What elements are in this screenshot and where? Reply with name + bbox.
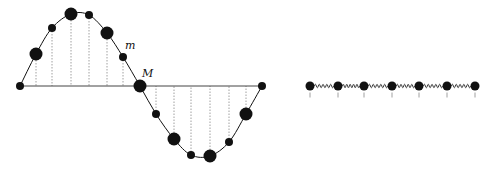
chain-bead: [471, 82, 480, 91]
diatomic-chain-diagram: m M: [0, 0, 492, 178]
spring: [452, 84, 471, 88]
large-mass-label: M: [141, 67, 154, 80]
mass-beads: [16, 8, 266, 163]
chain-bead: [388, 82, 397, 91]
chain-bead: [334, 82, 343, 91]
chain-bead: [443, 82, 452, 91]
small-mass-label: m: [125, 39, 135, 52]
mass-spring-chain-panel: [306, 82, 480, 98]
chain-bead: [415, 82, 424, 91]
spring: [397, 84, 415, 88]
spring: [424, 84, 443, 88]
spring: [315, 84, 334, 88]
equilibrium-ticks: [310, 93, 475, 98]
spring: [369, 84, 388, 88]
spring: [343, 84, 360, 88]
transverse-wave-panel: m M: [16, 8, 266, 163]
chain-bead: [306, 82, 315, 91]
chain-bead: [360, 82, 369, 91]
